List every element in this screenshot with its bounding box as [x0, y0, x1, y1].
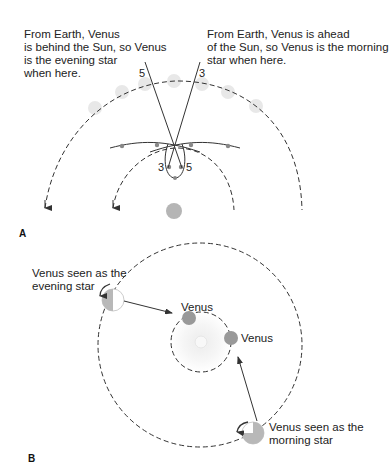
venus-label-top: Venus: [181, 301, 213, 314]
evening-star-explanation: From Earth, Venus is behind the Sun, so …: [24, 28, 167, 80]
morning-star-label: Venus seen as the morning star: [269, 421, 364, 447]
loop-label-3: 3: [158, 161, 164, 173]
venus-label-right: Venus: [241, 332, 273, 345]
panel-label-b: B: [28, 453, 35, 464]
venus-right: [224, 331, 238, 345]
sight-label-3-top: 3: [199, 67, 205, 79]
evening-star-label: Venus seen as the evening star: [32, 267, 127, 293]
panel-a: [45, 62, 302, 219]
sight-arrow-evening: [124, 301, 172, 313]
panel-label-a: A: [19, 228, 26, 239]
sight-arrow-morning: [238, 357, 257, 421]
sight-label-5-top: 5: [139, 67, 145, 79]
panel-b: [98, 243, 302, 447]
sun-a: [166, 203, 182, 219]
loop-label-5: 5: [186, 161, 192, 173]
earth-morning: [242, 422, 264, 444]
morning-star-explanation: From Earth, Venus is ahead of the Sun, s…: [207, 28, 389, 67]
sun-core: [195, 336, 207, 348]
